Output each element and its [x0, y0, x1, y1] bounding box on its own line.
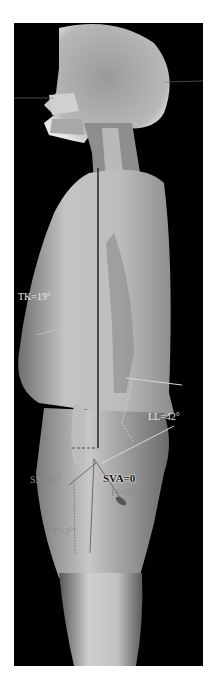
pelvis — [36, 408, 169, 578]
tk-label: TK=19° — [18, 292, 51, 302]
ss-label: SS=33° — [30, 475, 61, 485]
xray-image: TK=19° LL=42° SVA=0 SS=33° PI=36° PT=3° — [14, 23, 203, 666]
sva-label: SVA=0 — [103, 473, 135, 484]
legs — [59, 573, 142, 666]
xray-drawing — [14, 23, 203, 666]
pt-label: PT=3° — [47, 527, 73, 537]
ll-label: LL=42° — [148, 412, 180, 422]
pi-label: PI=36° — [111, 488, 140, 498]
